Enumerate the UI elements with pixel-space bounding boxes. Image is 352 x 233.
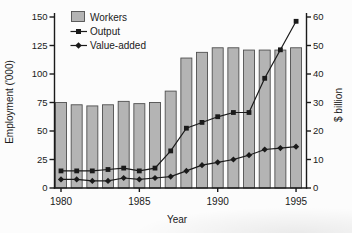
bar-1992 [244, 50, 255, 188]
workers-bars [56, 48, 302, 188]
x-tick-label: 1980 [50, 196, 73, 207]
output-point-1992 [247, 110, 252, 115]
right-tick-label: 50 [313, 40, 324, 51]
bar-1981 [71, 105, 82, 188]
legend: Workers Output Value-added [71, 12, 146, 52]
bar-1982 [87, 106, 98, 188]
x-axis-title: Year [167, 214, 188, 225]
legend-label-workers: Workers [90, 12, 127, 23]
bar-1980 [56, 103, 67, 189]
value-added-legend-diamond-marker-icon [75, 42, 82, 49]
right-axis-title: $ billion [333, 88, 344, 122]
right-tick-label: 10 [313, 154, 324, 165]
left-tick-label: 50 [37, 125, 48, 136]
output-point-1994 [278, 47, 283, 52]
legend-label-output: Output [90, 26, 120, 37]
output-point-1995 [294, 19, 299, 24]
output-point-1991 [231, 110, 236, 115]
left-tick-label: 100 [32, 68, 48, 79]
right-tick-label: 60 [313, 11, 324, 22]
output-point-1985 [137, 169, 142, 174]
left-tick-label: 75 [37, 97, 48, 108]
output-point-1987 [168, 149, 173, 154]
output-point-1993 [262, 76, 267, 81]
x-tick-label: 1985 [128, 196, 151, 207]
bar-1991 [228, 48, 239, 188]
left-tick-label: 0 [42, 182, 47, 193]
right-tick-label: 0 [313, 182, 318, 193]
right-tick-label: 30 [313, 97, 324, 108]
bar-1987 [165, 91, 176, 188]
x-tick-label: 1995 [285, 196, 308, 207]
output-point-1986 [153, 166, 158, 171]
legend-label-value-added: Value-added [90, 40, 146, 51]
left-tick-label: 25 [37, 154, 48, 165]
bar-1985 [134, 104, 145, 188]
x-tick-label: 1990 [207, 196, 230, 207]
output-point-1990 [215, 114, 220, 119]
left-tick-label: 150 [32, 11, 48, 22]
output-point-1982 [90, 169, 95, 174]
employment-output-chart: 0255075100125150010203040506019801985199… [0, 0, 352, 233]
output-point-1984 [121, 166, 126, 171]
output-legend-square-marker-icon [76, 29, 81, 34]
chart-figure: 0255075100125150010203040506019801985199… [0, 0, 352, 233]
left-axis-title: Employment ('000) [4, 60, 15, 144]
left-tick-label: 125 [32, 40, 48, 51]
output-point-1989 [200, 120, 205, 125]
output-point-1980 [59, 169, 64, 174]
bar-1983 [103, 105, 114, 188]
bar-1994 [275, 50, 286, 188]
output-point-1981 [74, 169, 79, 174]
output-point-1983 [106, 167, 111, 172]
workers-legend-swatch [72, 12, 85, 22]
right-tick-label: 20 [313, 125, 324, 136]
bar-1995 [291, 48, 302, 188]
right-tick-label: 40 [313, 68, 324, 79]
output-point-1988 [184, 126, 189, 131]
